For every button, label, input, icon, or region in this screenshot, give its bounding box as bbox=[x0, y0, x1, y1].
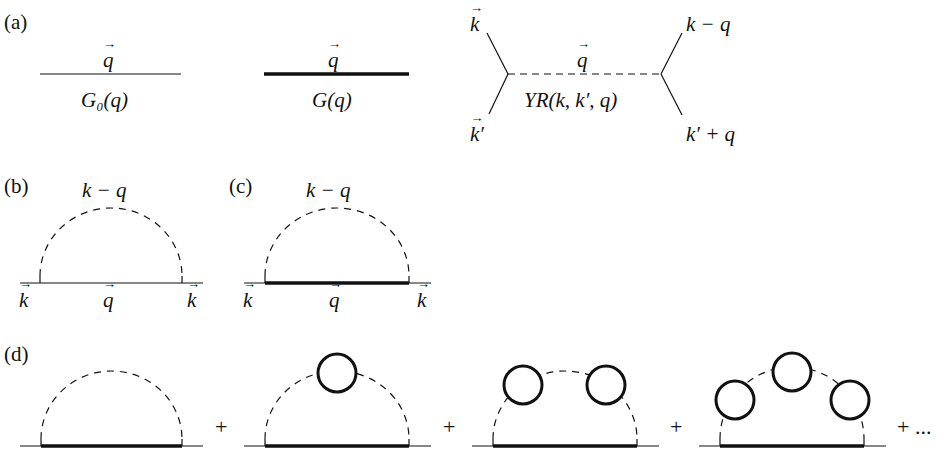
diagram-b bbox=[20, 208, 203, 283]
bubble bbox=[831, 381, 869, 419]
vertex-bottom-right-momentum: k′ + q bbox=[686, 124, 735, 145]
diagram-canvas bbox=[0, 0, 944, 469]
bubble bbox=[716, 381, 754, 419]
vertex-line-momentum: q bbox=[577, 50, 588, 71]
bare-propagator-name: G₀(q) bbox=[81, 90, 128, 111]
panel-label-d: (d) bbox=[4, 344, 29, 365]
bubble bbox=[504, 366, 542, 404]
vertex-top-right-momentum: k − q bbox=[686, 14, 731, 35]
diagram-c-right-momentum: k bbox=[417, 290, 426, 311]
panel-label-c: (c) bbox=[229, 176, 252, 197]
diagram-b-line-momentum: q bbox=[103, 290, 114, 311]
ellipsis: + ... bbox=[897, 416, 931, 438]
diagram-d-term-1 bbox=[244, 354, 431, 446]
diagram-d-term-2 bbox=[472, 366, 659, 446]
panel-label-a: (a) bbox=[4, 12, 27, 33]
diagram-b-arc-momentum: k − q bbox=[82, 180, 127, 201]
bubble bbox=[587, 366, 625, 404]
bare-propagator-momentum: q bbox=[103, 50, 114, 71]
vertex-bottom-left-momentum: k′ bbox=[470, 124, 484, 145]
diagram-c bbox=[244, 208, 431, 283]
diagram-d-term-0 bbox=[20, 371, 203, 446]
dressed-propagator-name: G(q) bbox=[312, 90, 352, 111]
panel-label-b: (b) bbox=[4, 176, 29, 197]
plus-sign: + bbox=[670, 416, 682, 438]
diagram-c-line-momentum: q bbox=[329, 290, 340, 311]
diagram-b-right-momentum: k bbox=[187, 290, 196, 311]
bubble bbox=[318, 354, 356, 392]
plus-sign: + bbox=[215, 416, 227, 438]
diagram-c-arc-momentum: k − q bbox=[306, 180, 351, 201]
vertex-top-left-momentum: k bbox=[470, 14, 479, 35]
plus-sign: + bbox=[443, 416, 455, 438]
bubble bbox=[773, 353, 811, 391]
vertex-coupling: YR(k, k′, q) bbox=[524, 90, 617, 111]
diagram-d-term-3 bbox=[699, 353, 886, 446]
dressed-propagator-momentum: q bbox=[328, 50, 339, 71]
diagram-b-left-momentum: k bbox=[19, 290, 28, 311]
diagram-c-left-momentum: k bbox=[243, 290, 252, 311]
